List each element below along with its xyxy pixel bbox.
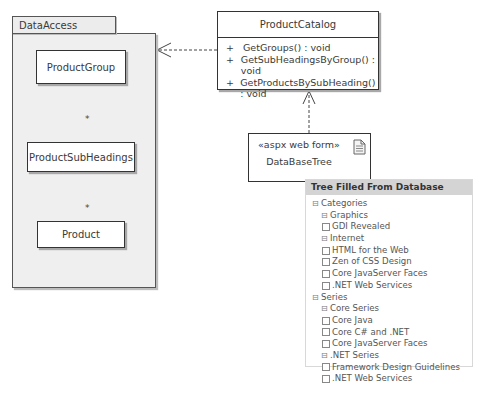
tree-node-core-java[interactable]: Core Java	[306, 315, 472, 327]
tree-node-categories[interactable]: ⊟ Categories	[306, 198, 472, 210]
collapse-icon[interactable]: ⊟	[312, 198, 321, 210]
tree-panel-title: Tree Filled From Database	[306, 180, 472, 195]
checkbox[interactable]	[322, 317, 330, 325]
tree-node-internet[interactable]: ⊟ Internet	[306, 233, 472, 245]
document-icon	[353, 139, 366, 155]
tree-node-label: .NET Web Services	[332, 280, 412, 292]
operation[interactable]: + GetGroups() : void	[226, 42, 378, 54]
collapse-icon[interactable]: ⊟	[321, 210, 330, 222]
tree-node-label: HTML for the Web	[332, 245, 409, 257]
multiplicity-label: *	[85, 114, 90, 124]
tree-node-html-for-the-web[interactable]: HTML for the Web	[306, 245, 472, 257]
tree-node-label: Framework Design Guidelines	[332, 362, 460, 374]
class-product[interactable]: Product	[37, 221, 125, 248]
tree-node-label: Core JavaServer Faces	[332, 338, 428, 350]
visibility-marker: +	[226, 77, 240, 100]
visibility-marker: +	[226, 42, 243, 54]
tree-node-label: .NET Series	[330, 350, 379, 362]
component-database-tree[interactable]: «aspx web form» DataBaseTree	[248, 133, 371, 182]
class-product-subheadings[interactable]: ProductSubHeadings	[27, 142, 135, 172]
tree-view[interactable]: ⊟ Categories ⊟ Graphics GDI Revealed ⊟ I…	[306, 195, 472, 385]
tree-node-core-jsf-2[interactable]: Core JavaServer Faces	[306, 338, 472, 350]
class-product-catalog[interactable]: ProductCatalog + GetGroups() : void + Ge…	[217, 11, 379, 90]
operation-signature: GetGroups() : void	[243, 42, 331, 54]
tree-node-zen-of-css[interactable]: Zen of CSS Design	[306, 256, 472, 268]
tree-node-label: Core Series	[330, 303, 379, 315]
checkbox[interactable]	[322, 282, 330, 290]
tree-panel: Tree Filled From Database ⊟ Categories ⊟…	[305, 179, 473, 367]
class-name: ProductCatalog	[260, 19, 336, 30]
package-name: DataAccess	[19, 20, 77, 31]
operation-signature: GetProductsBySubHeading() : void	[240, 77, 378, 100]
tree-node-label: Categories	[321, 198, 367, 210]
class-name: ProductGroup	[47, 62, 115, 73]
class-product-group[interactable]: ProductGroup	[36, 50, 126, 84]
operation[interactable]: + GetSubHeadingsByGroup() : void	[226, 54, 378, 77]
tree-node-series[interactable]: ⊟ Series	[306, 292, 472, 304]
checkbox[interactable]	[322, 363, 330, 371]
checkbox[interactable]	[322, 258, 330, 266]
tree-node-core-jsf[interactable]: Core JavaServer Faces	[306, 268, 472, 280]
visibility-marker: +	[226, 54, 241, 77]
tree-node-core-series[interactable]: ⊟ Core Series	[306, 303, 472, 315]
tree-node-label: Core C# and .NET	[332, 327, 409, 339]
tree-node-label: Zen of CSS Design	[332, 256, 412, 268]
tree-node-label: Core JavaServer Faces	[332, 268, 428, 280]
class-header: ProductCatalog	[218, 12, 378, 38]
tree-node-label: Core Java	[332, 315, 373, 327]
operations-compartment: + GetGroups() : void + GetSubHeadingsByG…	[218, 38, 378, 100]
collapse-icon[interactable]: ⊟	[321, 303, 330, 315]
checkbox[interactable]	[322, 247, 330, 255]
operation[interactable]: + GetProductsBySubHeading() : void	[226, 77, 378, 100]
component-name: DataBaseTree	[249, 156, 349, 167]
tree-node-label: .NET Web Services	[332, 373, 412, 385]
multiplicity-label: *	[85, 203, 90, 213]
tree-node-core-csharp[interactable]: Core C# and .NET	[306, 327, 472, 339]
tree-node-label: Graphics	[330, 210, 368, 222]
checkbox[interactable]	[322, 328, 330, 336]
class-name: Product	[62, 229, 100, 240]
package-tab[interactable]: DataAccess	[12, 16, 116, 34]
class-name: ProductSubHeadings	[29, 152, 133, 163]
collapse-icon[interactable]: ⊟	[321, 233, 330, 245]
checkbox[interactable]	[322, 340, 330, 348]
operation-signature: GetSubHeadingsByGroup() : void	[241, 54, 378, 77]
tree-node-label: GDI Revealed	[332, 221, 390, 233]
collapse-icon[interactable]: ⊟	[312, 292, 321, 304]
tree-node-framework-design[interactable]: Framework Design Guidelines	[306, 362, 472, 374]
tree-node-net-web-services-2[interactable]: .NET Web Services	[306, 373, 472, 385]
tree-node-net-series[interactable]: ⊟ .NET Series	[306, 350, 472, 362]
tree-node-graphics[interactable]: ⊟ Graphics	[306, 210, 472, 222]
checkbox[interactable]	[322, 375, 330, 383]
tree-node-label: Series	[321, 292, 347, 304]
tree-node-gdi-revealed[interactable]: GDI Revealed	[306, 221, 472, 233]
tree-node-label: Internet	[330, 233, 364, 245]
checkbox[interactable]	[322, 223, 330, 231]
checkbox[interactable]	[322, 270, 330, 278]
collapse-icon[interactable]: ⊟	[321, 350, 330, 362]
tree-node-net-web-services[interactable]: .NET Web Services	[306, 280, 472, 292]
stereotype-label: «aspx web form»	[249, 139, 349, 150]
